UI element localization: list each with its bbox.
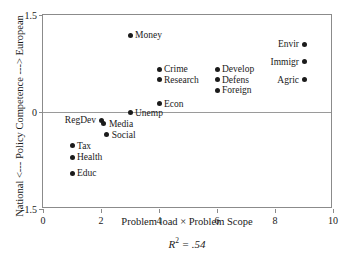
data-point-label: Educ: [77, 168, 97, 178]
y-axis-title: National <--- Policy Competence ---> Eur…: [14, 4, 28, 228]
data-point-label: Media: [109, 119, 133, 129]
data-point[interactable]: [302, 42, 307, 47]
data-point-label: Money: [135, 30, 162, 40]
data-point-label: RegDev: [65, 115, 96, 125]
plot-area: MoneyEnvirImmigrCrimeDevelopResearchDefe…: [42, 14, 332, 208]
data-point[interactable]: [70, 155, 75, 160]
data-point[interactable]: [215, 77, 220, 82]
data-point[interactable]: [128, 110, 133, 115]
x-tick-mark: [43, 209, 44, 213]
data-point[interactable]: [104, 132, 109, 137]
data-point-label: Envir: [278, 39, 299, 49]
data-point-label: Health: [77, 152, 102, 162]
data-point-label: Crime: [164, 64, 188, 74]
data-point-label: Agric: [277, 75, 299, 85]
y-tick-label: -1.5: [21, 204, 37, 215]
x-tick-mark: [217, 209, 218, 213]
scatter-plot-figure: National <--- Policy Competence ---> Eur…: [0, 0, 344, 264]
data-point[interactable]: [215, 67, 220, 72]
zero-reference-line: [43, 112, 331, 113]
data-point-label: Develop: [222, 64, 254, 74]
x-tick-mark: [101, 209, 102, 213]
data-point[interactable]: [157, 77, 162, 82]
data-point[interactable]: [215, 88, 220, 93]
data-point-label: Unemp: [135, 108, 163, 118]
x-tick-mark: [159, 209, 160, 213]
data-point[interactable]: [302, 59, 307, 64]
data-point[interactable]: [101, 121, 106, 126]
r-squared-exponent: 2: [175, 236, 179, 245]
data-point[interactable]: [302, 77, 307, 82]
data-point-label: Foreign: [222, 85, 252, 95]
data-point[interactable]: [70, 171, 75, 176]
y-tick-mark: [39, 15, 43, 16]
data-point-label: Social: [112, 130, 136, 140]
data-point[interactable]: [70, 143, 75, 148]
r-squared-value: = .54: [182, 238, 206, 250]
data-point[interactable]: [157, 67, 162, 72]
data-point-label: Research: [164, 75, 199, 85]
y-tick-label: 1.5: [25, 10, 38, 21]
data-point[interactable]: [157, 101, 162, 106]
data-point[interactable]: [128, 33, 133, 38]
r-squared-annotation: R2 = .54: [42, 236, 332, 250]
x-tick-mark: [333, 209, 334, 213]
y-tick-mark: [39, 112, 43, 113]
y-tick-label: 0: [32, 107, 37, 118]
x-axis-title: Problem load × Problem Scope: [42, 216, 332, 227]
data-point-label: Tax: [77, 141, 91, 151]
x-tick-mark: [275, 209, 276, 213]
data-point-label: Immigr: [271, 57, 300, 67]
data-point-label: Econ: [164, 99, 184, 109]
data-point-label: Defens: [222, 75, 249, 85]
